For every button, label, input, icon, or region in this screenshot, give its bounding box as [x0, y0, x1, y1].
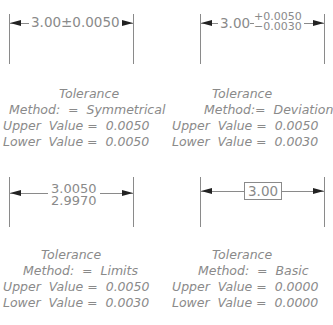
arrowhead-right-icon: [122, 190, 133, 196]
caption-lower-value: Lower Value = 0.0030: [3, 295, 163, 311]
arrowhead-left-icon: [10, 190, 21, 196]
diagram-limits: 3.0050 2.9970 Tolerance Method: = Limits…: [0, 163, 166, 325]
caption-title: Tolerance: [166, 86, 333, 102]
arrowhead-left-icon: [201, 188, 212, 194]
arrowhead-left-icon: [201, 20, 212, 26]
deviation-stack: +0.0050 −0.0030: [254, 12, 304, 32]
extension-line-left: [9, 177, 10, 227]
arrowhead-right-icon: [313, 188, 324, 194]
arrowhead-right-icon: [313, 20, 324, 26]
diagram-symmetrical: 3.00±0.0050 Tolerance Method: = Symmetri…: [0, 0, 166, 160]
caption-method: Method: = Symmetrical: [3, 102, 163, 118]
dimension-nominal: 3.00: [218, 17, 250, 31]
diagram-basic: 3.00 Tolerance Method: = Basic Upper Val…: [166, 163, 333, 325]
tolerance-caption: Tolerance Method: = Limits Upper Value =…: [3, 247, 163, 311]
lower-deviation: −0.0030: [254, 22, 302, 32]
dimension-text: 3.00±0.0050: [29, 16, 122, 30]
caption-upper-value: Upper Value = 0.0000: [166, 279, 333, 295]
tolerance-caption: Tolerance Method:= Deviation Upper Value…: [166, 86, 333, 150]
caption-upper-value: Upper Value = 0.0050: [166, 118, 333, 134]
caption-upper-value: Upper Value = 0.0050: [3, 279, 163, 295]
caption-title: Tolerance: [3, 247, 163, 263]
caption-method: Method: = Limits: [3, 263, 163, 279]
caption-lower-value: Lower Value = 0.0000: [166, 295, 333, 311]
extension-line-right: [133, 177, 134, 227]
diagram-deviation: 3.00 +0.0050 −0.0030 Tolerance Method:= …: [166, 0, 333, 160]
caption-method: Method:= Deviation: [166, 102, 333, 118]
caption-upper-value: Upper Value = 0.0050: [3, 118, 163, 134]
extension-line-right: [324, 14, 325, 64]
extension-line-right: [324, 177, 325, 227]
extension-line-left: [200, 177, 201, 227]
caption-method: Method: = Basic: [166, 263, 333, 279]
caption-lower-value: Lower Value = 0.0030: [166, 134, 333, 150]
basic-dimension-box: 3.00: [244, 182, 282, 200]
arrowhead-right-icon: [122, 20, 133, 26]
limits-stack: 3.0050 2.9970: [48, 183, 100, 207]
caption-title: Tolerance: [3, 86, 163, 102]
caption-lower-value: Lower Value = 0.0050: [3, 134, 163, 150]
lower-limit: 2.9970: [51, 195, 97, 207]
arrowhead-left-icon: [10, 20, 21, 26]
tolerance-caption: Tolerance Method: = Basic Upper Value = …: [166, 247, 333, 311]
tolerance-caption: Tolerance Method: = Symmetrical Upper Va…: [3, 86, 163, 150]
extension-line-right: [133, 14, 134, 64]
caption-title: Tolerance: [166, 247, 333, 263]
